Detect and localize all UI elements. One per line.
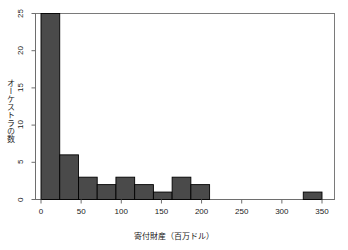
histogram-figure: オーケストラの数 寄付財産（百万ドル） 05010015020025030035…	[0, 0, 348, 250]
histogram-bar	[303, 192, 322, 199]
y-tick-label: 0	[16, 192, 30, 208]
y-tick-label: 15	[16, 80, 30, 96]
y-axis-title: オーケストラの数	[0, 56, 14, 166]
x-tick-label: 0	[28, 207, 54, 216]
histogram-bar	[41, 14, 60, 200]
x-tick-label: 150	[148, 207, 174, 216]
histogram-bar	[135, 185, 154, 200]
histogram-bar	[191, 185, 210, 200]
histogram-bar	[78, 177, 97, 199]
y-tick-label: 5	[16, 154, 30, 170]
bars-group	[41, 14, 322, 200]
y-tick-label: 20	[16, 43, 30, 59]
x-tick-label: 100	[108, 207, 134, 216]
x-axis-title: 寄付財産（百万ドル）	[0, 230, 348, 241]
x-tick-label: 300	[269, 207, 295, 216]
y-axis-ticks	[32, 14, 36, 200]
y-tick-label: 10	[16, 117, 30, 133]
histogram-bar	[60, 155, 79, 200]
histogram-bar	[153, 192, 172, 199]
plot-frame	[36, 14, 335, 200]
x-axis-ticks	[41, 200, 322, 204]
x-tick-label: 200	[189, 207, 215, 216]
histogram-bar	[97, 185, 116, 200]
histogram-bar	[172, 177, 191, 199]
y-tick-label: 25	[16, 6, 30, 22]
x-tick-label: 350	[309, 207, 335, 216]
x-tick-label: 50	[68, 207, 94, 216]
histogram-bar	[116, 177, 135, 199]
x-tick-label: 250	[229, 207, 255, 216]
